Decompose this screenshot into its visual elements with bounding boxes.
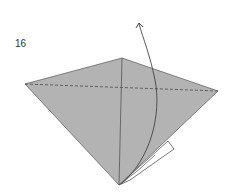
origami-diagram [0, 0, 234, 193]
